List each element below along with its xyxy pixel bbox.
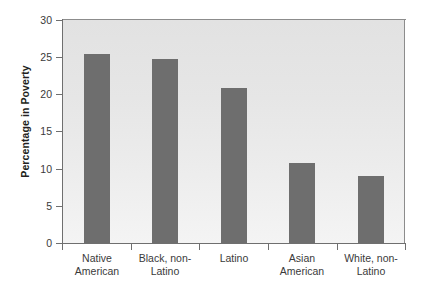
- x-label-line-2: American: [262, 265, 342, 278]
- x-label-black-non-latino: Black, non- Latino: [125, 252, 205, 277]
- x-tick-0: [62, 244, 63, 250]
- poverty-bar-chart: Percentage in Poverty 30 25 20 15 10 5 0…: [0, 0, 426, 294]
- bar-white-non-latino: [358, 176, 384, 243]
- bar-asian-american: [289, 163, 315, 243]
- y-tick-25: [56, 57, 63, 58]
- x-axis-line: [62, 243, 406, 244]
- y-tick-label-5: 5: [18, 200, 52, 212]
- x-label-line-1: Asian: [262, 252, 342, 265]
- bar-latino: [221, 88, 247, 243]
- y-tick-label-30: 30: [18, 14, 52, 26]
- y-tick-label-0: 0: [18, 237, 52, 249]
- y-tick-label-25: 25: [18, 51, 52, 63]
- y-tick-label-10: 10: [18, 163, 52, 175]
- x-label-line-2: Latino: [125, 265, 205, 278]
- x-label-asian-american: Asian American: [262, 252, 342, 277]
- y-tick-20: [56, 94, 63, 95]
- y-tick-label-20: 20: [18, 88, 52, 100]
- x-label-line-1: Black, non-: [125, 252, 205, 265]
- x-label-line-1: White, non-: [331, 252, 411, 265]
- y-tick-30: [56, 20, 63, 21]
- bars-layer: [63, 20, 405, 243]
- y-tick-label-15: 15: [18, 125, 52, 137]
- y-tick-10: [56, 169, 63, 170]
- x-tick-2: [199, 244, 200, 250]
- y-tick-15: [56, 131, 63, 132]
- x-tick-3: [268, 244, 269, 250]
- y-tick-5: [56, 206, 63, 207]
- bar-black-non-latino: [152, 59, 178, 243]
- x-label-line-2: Latino: [331, 265, 411, 278]
- x-label-white-non-latino: White, non- Latino: [331, 252, 411, 277]
- x-tick-5: [405, 244, 406, 250]
- x-tick-4: [337, 244, 338, 250]
- bar-native-american: [84, 54, 110, 243]
- x-tick-1: [131, 244, 132, 250]
